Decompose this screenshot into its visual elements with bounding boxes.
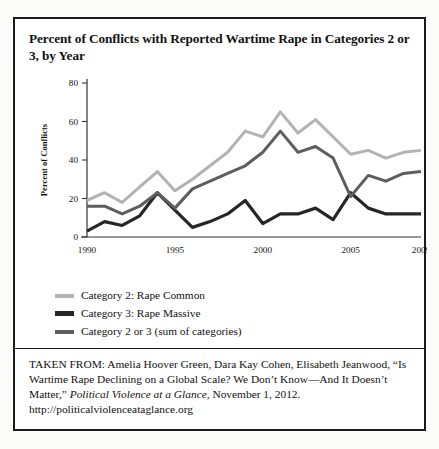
x-tick-label: 2005 [341, 245, 360, 255]
legend-item-category3: Category 3: Rape Massive [55, 305, 412, 323]
legend-swatch-category2 [55, 294, 74, 298]
x-tick-label: 2000 [254, 245, 273, 255]
source-divider [15, 348, 424, 349]
legend-label-category2: Category 2: Rape Common [81, 290, 205, 301]
series-line-2 [87, 192, 421, 231]
legend-label-category2or3: Category 2 or 3 (sum of categories) [81, 326, 242, 337]
source-citation: TAKEN FROM: Amelia Hoover Green, Dara Ka… [29, 357, 411, 418]
figure-page: Percent of Conflicts with Reported Warti… [0, 0, 439, 449]
y-tick-label: 40 [69, 155, 79, 165]
legend-swatch-category3 [55, 311, 74, 316]
figure-inner: Percent of Conflicts with Reported Warti… [15, 19, 424, 429]
legend-item-category2: Category 2: Rape Common [55, 287, 412, 305]
y-tick-label: 60 [69, 116, 79, 126]
chart-legend: Category 2: Rape Common Category 3: Rape… [55, 287, 412, 341]
line-chart: 02040608019901995200020052009Percent of … [29, 71, 427, 283]
x-tick-label: 1995 [166, 245, 185, 255]
figure-frame: Percent of Conflicts with Reported Warti… [13, 17, 426, 431]
x-tick-label: 1990 [78, 245, 97, 255]
y-tick-label: 80 [69, 78, 79, 88]
series-line-3 [87, 131, 421, 214]
legend-item-category2or3: Category 2 or 3 (sum of categories) [55, 323, 412, 341]
legend-swatch-category2or3 [55, 330, 74, 334]
figure-title: Percent of Conflicts with Reported Warti… [29, 31, 412, 65]
y-axis-title: Percent of Conflicts [39, 123, 49, 196]
legend-label-category3: Category 3: Rape Massive [81, 308, 201, 319]
y-tick-label: 20 [69, 193, 79, 203]
y-tick-label: 0 [73, 232, 78, 242]
series-line-1 [87, 111, 421, 201]
chart-area: 02040608019901995200020052009Percent of … [29, 71, 412, 283]
x-tick-label: 2009 [412, 245, 427, 255]
source-publication: Political Violence at a Glance [70, 388, 207, 400]
